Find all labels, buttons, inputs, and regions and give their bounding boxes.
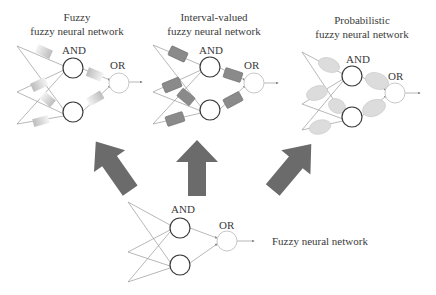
base-or-node	[217, 231, 237, 251]
base-and-node-2	[170, 255, 190, 275]
arrow-to-probabilistic	[258, 132, 326, 202]
fuzzy-and-node-2	[63, 102, 83, 122]
fuzzy-and-node-1	[63, 58, 83, 78]
base-and-node-1	[170, 218, 190, 238]
fuzzy-or-node	[109, 73, 129, 93]
probabilistic-or-node	[385, 83, 405, 103]
diagram-canvas	[0, 0, 436, 295]
interval-and-node-1	[200, 57, 220, 77]
arrow-to-interval	[176, 140, 218, 196]
interval-and-node-2	[200, 100, 220, 120]
probabilistic-and-node-2	[342, 107, 362, 127]
probabilistic-and-node-1	[342, 66, 362, 86]
arrow-to-fuzzy	[80, 131, 146, 202]
interval-or-node	[244, 73, 264, 93]
